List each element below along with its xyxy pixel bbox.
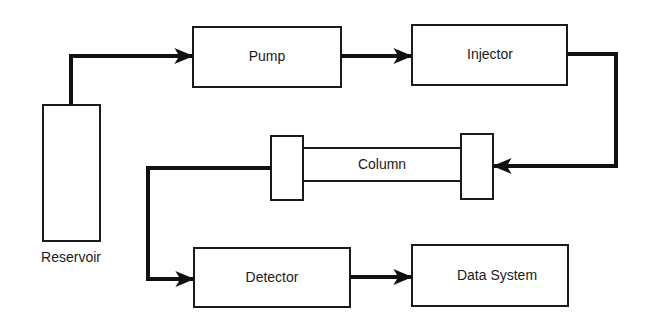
data-system-label: Data System — [457, 267, 537, 283]
detector-label: Detector — [246, 269, 299, 285]
column-node: Column — [271, 134, 493, 200]
injector-label: Injector — [467, 46, 513, 62]
detector-node: Detector — [194, 248, 350, 307]
injector-node: Injector — [412, 25, 567, 85]
column-label: Column — [358, 156, 406, 172]
column-left-cap — [271, 136, 303, 200]
hplc-diagram: Reservoir Pump Injector Column Detector … — [0, 0, 648, 325]
column-right-cap — [461, 134, 493, 199]
reservoir-label: Reservoir — [41, 249, 101, 265]
pump-node: Pump — [193, 27, 341, 87]
pump-label: Pump — [249, 48, 286, 64]
arrow-reservoir-to-pump — [71, 56, 192, 105]
reservoir-node: Reservoir — [41, 105, 101, 265]
data-system-node: Data System — [412, 245, 568, 306]
